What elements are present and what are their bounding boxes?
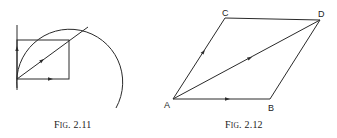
caption-smallcaps: IG — [231, 121, 239, 130]
caption-smallcaps: IG — [60, 121, 68, 130]
point-label-a: A — [164, 100, 170, 110]
fig-2-11-diagram — [15, 25, 122, 108]
fig-2-12-caption: FIG. 2.12 — [225, 119, 263, 130]
arrow-ad-icon — [247, 57, 252, 61]
point-label-d: D — [318, 9, 325, 19]
diagonal-resultant-line — [17, 27, 88, 79]
point-label-c: C — [222, 8, 229, 18]
arrow-right-icon — [48, 77, 53, 80]
edge-ac — [173, 18, 225, 99]
edge-ad — [173, 20, 320, 99]
point-label-b: B — [268, 103, 274, 113]
arrow-ab-icon — [225, 97, 230, 100]
caption-number: . 2.12 — [239, 119, 263, 130]
fig-2-11-caption: FIG. 2.11 — [54, 119, 91, 130]
edge-cd — [225, 18, 320, 20]
fig-2-12-diagram — [173, 18, 320, 101]
figures-canvas — [0, 0, 337, 138]
caption-number: . 2.11 — [68, 119, 91, 130]
arrow-up-icon — [15, 46, 18, 51]
circular-arc — [17, 29, 123, 108]
arrow-ac-icon — [201, 50, 205, 55]
edge-bd — [270, 20, 320, 99]
